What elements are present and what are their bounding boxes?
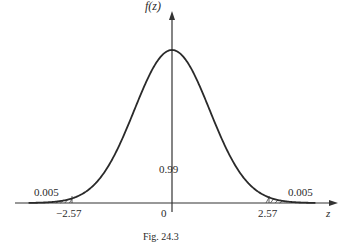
y-axis-label: f(z) xyxy=(145,1,161,12)
normal-curve-plot xyxy=(0,0,349,245)
figure-caption: Fig. 24.3 xyxy=(143,231,179,242)
right-tail-area-label: 0.005 xyxy=(288,187,313,198)
y-axis-arrow-icon xyxy=(169,11,175,20)
tick-label-zero: 0 xyxy=(161,208,167,219)
center-area-label: 0.99 xyxy=(159,164,178,175)
x-axis-label: z xyxy=(326,208,330,219)
left-tail-area-label: 0.005 xyxy=(34,187,59,198)
tick-label-2-57: 2.57 xyxy=(258,208,277,219)
tick-label-neg-2-57: −2.57 xyxy=(56,208,81,219)
x-axis-arrow-icon xyxy=(329,200,338,206)
